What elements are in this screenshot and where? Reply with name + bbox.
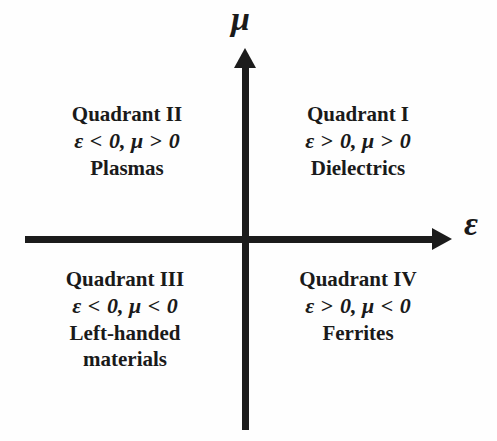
quadrant-2-title: Quadrant II (27, 101, 227, 127)
quadrant-4-eps-value: 0, (340, 293, 357, 318)
y-axis-arrowhead-icon (234, 48, 256, 68)
quadrant-diagram: μ ε Quadrant II ε < 0, μ > 0 Plasmas Qua… (0, 0, 497, 441)
quadrant-4-condition: ε > 0, μ < 0 (258, 292, 458, 320)
quadrant-2-eps-symbol: ε (74, 128, 83, 153)
quadrant-1-eps-value: 0, (340, 128, 357, 153)
quadrant-3-mu-operator: < (147, 293, 162, 318)
x-axis-line (25, 236, 440, 243)
quadrant-1-mu-symbol: μ (362, 128, 374, 153)
quadrant-2-mu-value: 0 (169, 128, 180, 153)
quadrant-3-material-line-2: materials (25, 346, 225, 372)
quadrant-4-mu-value: 0 (400, 293, 411, 318)
quadrant-3-eps-value: 0, (107, 293, 124, 318)
quadrant-2-condition: ε < 0, μ > 0 (27, 127, 227, 155)
quadrant-2-block: Quadrant II ε < 0, μ > 0 Plasmas (27, 101, 227, 181)
y-axis-line (242, 60, 249, 430)
quadrant-3-mu-value: 0 (167, 293, 178, 318)
quadrant-3-eps-operator: < (87, 293, 102, 318)
quadrant-1-material-line-1: Dielectrics (258, 155, 458, 181)
quadrant-3-block: Quadrant III ε < 0, μ < 0 Left-handed ma… (25, 266, 225, 372)
quadrant-4-eps-symbol: ε (305, 293, 314, 318)
quadrant-2-mu-operator: > (149, 128, 164, 153)
y-axis-label-mu: μ (231, 2, 250, 36)
quadrant-3-material-line-1: Left-handed (25, 320, 225, 346)
quadrant-4-material-line-1: Ferrites (258, 320, 458, 346)
quadrant-4-mu-symbol: μ (362, 293, 374, 318)
quadrant-2-eps-value: 0, (109, 128, 126, 153)
quadrant-4-mu-operator: < (380, 293, 395, 318)
quadrant-1-block: Quadrant I ε > 0, μ > 0 Dielectrics (258, 101, 458, 181)
x-axis-arrowhead-icon (432, 228, 452, 250)
quadrant-1-title: Quadrant I (258, 101, 458, 127)
quadrant-4-block: Quadrant IV ε > 0, μ < 0 Ferrites (258, 266, 458, 346)
quadrant-3-eps-symbol: ε (72, 293, 81, 318)
quadrant-4-eps-operator: > (320, 293, 335, 318)
quadrant-1-mu-operator: > (380, 128, 395, 153)
quadrant-2-eps-operator: < (89, 128, 104, 153)
quadrant-3-condition: ε < 0, μ < 0 (25, 292, 225, 320)
quadrant-1-condition: ε > 0, μ > 0 (258, 127, 458, 155)
quadrant-1-eps-symbol: ε (305, 128, 314, 153)
quadrant-1-mu-value: 0 (400, 128, 411, 153)
quadrant-4-title: Quadrant IV (258, 266, 458, 292)
quadrant-3-title: Quadrant III (25, 266, 225, 292)
quadrant-2-material-line-1: Plasmas (27, 155, 227, 181)
x-axis-label-epsilon: ε (464, 207, 478, 241)
quadrant-2-mu-symbol: μ (131, 128, 143, 153)
quadrant-1-eps-operator: > (320, 128, 335, 153)
quadrant-3-mu-symbol: μ (129, 293, 141, 318)
